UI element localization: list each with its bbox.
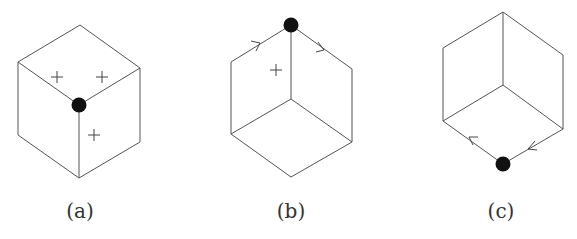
vertex-dot — [496, 157, 511, 172]
arrow-right-icon — [251, 41, 260, 51]
plus-icon — [270, 64, 282, 76]
panel-label-a: (a) — [66, 199, 94, 223]
panel-b: (b) — [231, 18, 352, 224]
panel-label-b: (b) — [277, 199, 305, 223]
cube-a-edge-upper-left — [18, 62, 79, 105]
cube-diagram-figure: (a) (b) (c) — [0, 0, 577, 239]
vertex-dot — [284, 18, 299, 33]
cube-a-edge-upper-right — [79, 68, 140, 105]
cube-b-edge-lower-right — [291, 99, 352, 142]
cube-c-edge-lower-left — [443, 85, 503, 121]
plus-icon — [88, 129, 100, 141]
plus-icon — [51, 71, 63, 83]
plus-icon — [96, 71, 108, 83]
cube-b-edge-lower-left — [231, 99, 291, 134]
cube-c-edge-lower-right — [503, 85, 563, 129]
panel-label-c: (c) — [488, 199, 515, 223]
panel-a: (a) — [18, 25, 140, 223]
panel-c: (c) — [443, 12, 563, 223]
vertex-dot — [72, 98, 87, 113]
